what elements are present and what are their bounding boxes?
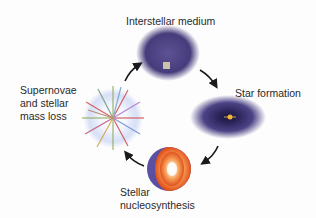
label-nucleosynthesis-line1: Stellar bbox=[120, 186, 195, 199]
label-nucleosynthesis-line2: nucleosynthesis bbox=[120, 199, 195, 212]
arrow-formation-to-nucleosynthesis bbox=[203, 146, 218, 163]
star-formation-cloud bbox=[190, 95, 266, 139]
label-supernovae-line2: and stellar bbox=[20, 97, 77, 110]
arrow-supernova-to-medium bbox=[125, 64, 140, 81]
label-supernovae-line3: mass loss bbox=[20, 110, 77, 123]
interstellar-medium-cloud bbox=[136, 25, 200, 81]
label-interstellar-medium: Interstellar medium bbox=[126, 15, 215, 28]
supernova-burst bbox=[82, 86, 144, 150]
label-supernovae-line1: Supernovae bbox=[20, 84, 77, 97]
arrow-medium-to-formation bbox=[200, 70, 216, 86]
arrow-nucleosynthesis-to-supernova bbox=[126, 153, 144, 166]
label-star-formation: Star formation bbox=[235, 87, 301, 100]
label-supernovae: Supernovae and stellar mass loss bbox=[20, 84, 77, 123]
star-cross-section bbox=[147, 147, 191, 191]
label-stellar-nucleosynthesis: Stellar nucleosynthesis bbox=[120, 186, 195, 212]
